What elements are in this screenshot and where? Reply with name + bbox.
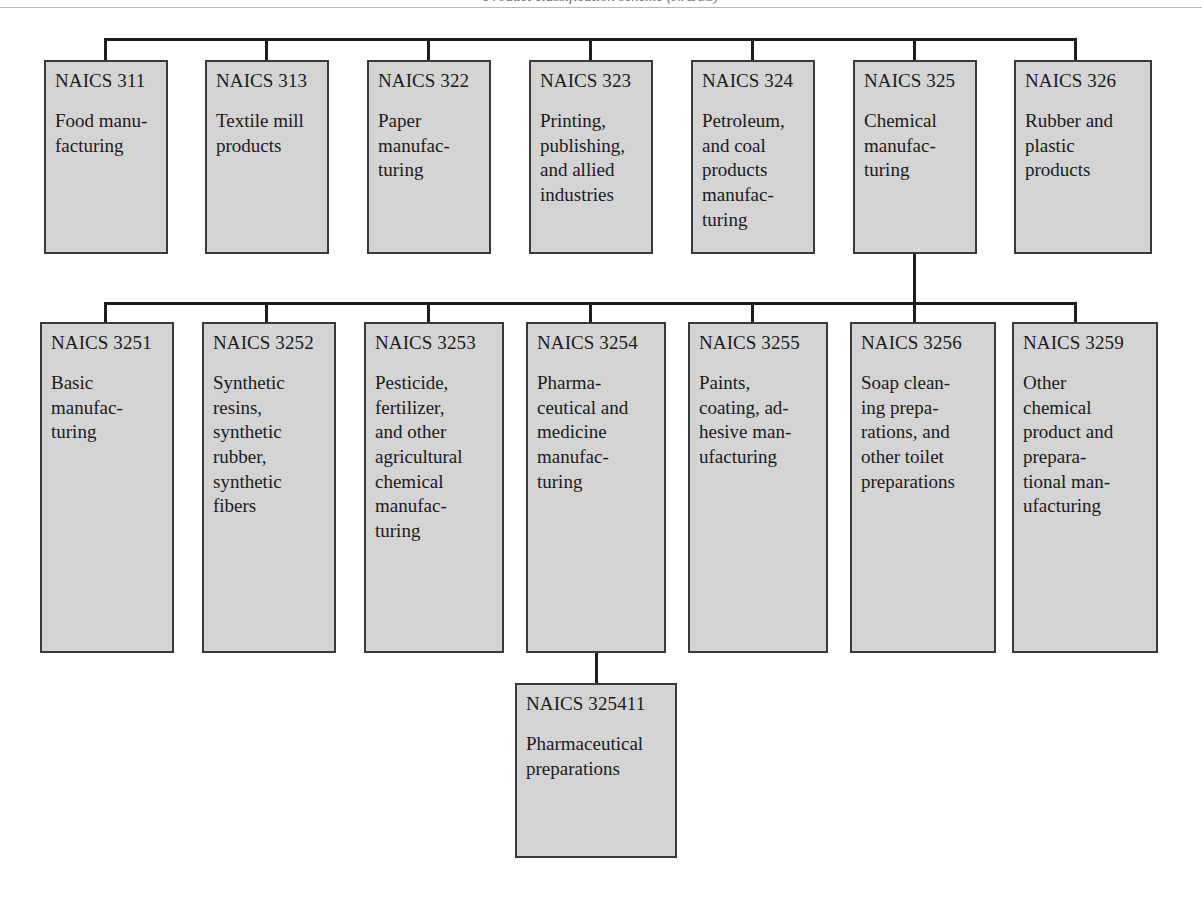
node-label: Paints, coating, ad- hesive man- ufactur…	[699, 371, 817, 470]
node-label: Basic manufac- turing	[51, 371, 163, 445]
node-naics-3253[interactable]: NAICS 3253 Pesticide, fertilizer, and ot…	[364, 322, 504, 653]
level2-stub-3254	[589, 302, 592, 322]
node-label: Other chemical product and prepara- tion…	[1023, 371, 1147, 519]
node-naics-313[interactable]: NAICS 313 Textile mill products	[205, 60, 329, 254]
node-code: NAICS 322	[378, 71, 480, 91]
node-code: NAICS 3254	[537, 333, 655, 353]
node-label: Pharma- ceutical and medicine manufac- t…	[537, 371, 655, 494]
connector-325-to-level2	[913, 254, 916, 303]
level2-stub-3251	[104, 302, 107, 322]
node-naics-322[interactable]: NAICS 322 Paper manufac- turing	[367, 60, 491, 254]
node-naics-3255[interactable]: NAICS 3255 Paints, coating, ad- hesive m…	[688, 322, 828, 653]
node-code: NAICS 326	[1025, 71, 1141, 91]
node-label: Textile mill products	[216, 109, 318, 158]
level1-stub-326	[1074, 38, 1077, 60]
node-naics-326[interactable]: NAICS 326 Rubber and plastic products	[1014, 60, 1152, 254]
node-label: Printing, publishing, and allied industr…	[540, 109, 642, 208]
node-naics-3256[interactable]: NAICS 3256 Soap clean- ing prepa- ration…	[850, 322, 996, 653]
node-code: NAICS 3253	[375, 333, 493, 353]
node-label: Paper manufac- turing	[378, 109, 480, 183]
node-naics-3251[interactable]: NAICS 3251 Basic manufac- turing	[40, 322, 174, 653]
node-naics-325[interactable]: NAICS 325 Chemical manufac- turing	[853, 60, 977, 254]
level2-stub-3255	[751, 302, 754, 322]
node-code: NAICS 325	[864, 71, 966, 91]
node-code: NAICS 313	[216, 71, 318, 91]
level1-stub-323	[589, 38, 592, 60]
level1-stub-324	[751, 38, 754, 60]
node-code: NAICS 323	[540, 71, 642, 91]
node-naics-324[interactable]: NAICS 324 Petroleum, and coal products m…	[691, 60, 815, 254]
node-code: NAICS 3251	[51, 333, 163, 353]
node-label: Food manu- facturing	[55, 109, 157, 158]
node-naics-311[interactable]: NAICS 311 Food manu- facturing	[44, 60, 168, 254]
node-code: NAICS 324	[702, 71, 804, 91]
node-label: Pharmaceutical preparations	[526, 732, 666, 781]
node-label: Petroleum, and coal products manufac- tu…	[702, 109, 804, 232]
node-label: Synthetic resins, synthetic rubber, synt…	[213, 371, 325, 519]
node-label: Pesticide, fertilizer, and other agricul…	[375, 371, 493, 544]
node-naics-325411[interactable]: NAICS 325411 Pharmaceutical preparations	[515, 683, 677, 858]
node-label: Rubber and plastic products	[1025, 109, 1141, 183]
level1-stub-313	[265, 38, 268, 60]
node-naics-3259[interactable]: NAICS 3259 Other chemical product and pr…	[1012, 322, 1158, 653]
node-naics-3252[interactable]: NAICS 3252 Synthetic resins, synthetic r…	[202, 322, 336, 653]
node-code: NAICS 325411	[526, 694, 666, 714]
naics-hierarchy-diagram: NAICS 311 Food manu- facturing NAICS 313…	[0, 0, 1202, 901]
node-code: NAICS 311	[55, 71, 157, 91]
level1-stub-322	[427, 38, 430, 60]
node-code: NAICS 3255	[699, 333, 817, 353]
node-code: NAICS 3256	[861, 333, 985, 353]
level2-stub-3252	[265, 302, 268, 322]
node-label: Chemical manufac- turing	[864, 109, 966, 183]
node-naics-323[interactable]: NAICS 323 Printing, publishing, and alli…	[529, 60, 653, 254]
node-label: Soap clean- ing prepa- rations, and othe…	[861, 371, 985, 494]
level2-stub-3253	[427, 302, 430, 322]
level2-stub-3259	[1074, 302, 1077, 322]
level1-stub-325	[913, 38, 916, 60]
level1-stub-311	[104, 38, 107, 60]
connector-3254-to-level3	[595, 653, 598, 683]
node-code: NAICS 3252	[213, 333, 325, 353]
level2-stub-3256	[913, 302, 916, 322]
node-naics-3254[interactable]: NAICS 3254 Pharma- ceutical and medicine…	[526, 322, 666, 653]
node-code: NAICS 3259	[1023, 333, 1147, 353]
